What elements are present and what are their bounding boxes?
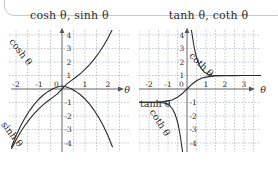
y-tick-4: 4 [180, 31, 185, 40]
y-tick--3: -3 [65, 125, 73, 134]
x-tick--2: -2 [145, 80, 153, 89]
plot-tanh-coth: -2 -1 0 1 2 3 4 3 2 1 -1 -2 -3 -4 θ [139, 0, 278, 170]
x-axis-arrow [249, 87, 255, 92]
y-tick-4: 4 [67, 31, 72, 40]
x-axis-arrow [118, 87, 124, 92]
y-tick-3: 3 [67, 44, 72, 53]
y-tick--4: -4 [190, 139, 198, 148]
y-axis-arrow [60, 28, 65, 34]
x-axis-label: θ [260, 84, 266, 95]
y-tick--2: -2 [190, 112, 198, 121]
x-tick-3: 3 [242, 80, 247, 89]
x-axis-label: θ [124, 84, 130, 95]
y-tick--3: -3 [190, 125, 198, 134]
panel-tanh-coth: tanh θ, coth θ [139, 0, 278, 170]
y-tick--1: -1 [65, 98, 72, 107]
panel-cosh-sinh: cosh θ, sinh θ [0, 0, 139, 170]
y-axis-arrow [185, 28, 190, 34]
x-tick--1: -1 [164, 80, 171, 89]
y-tick--4: -4 [65, 139, 73, 148]
x-tick-2: 2 [223, 80, 228, 89]
x-tick-1: 1 [83, 80, 88, 89]
y-tick-2: 2 [180, 58, 185, 67]
hyperbolic-function-figure: cosh θ, sinh θ [0, 0, 278, 170]
y-tick-1: 1 [67, 71, 72, 80]
x-tick--1: -1 [35, 80, 42, 89]
y-tick-1: 1 [180, 71, 185, 80]
x-tick--2: -2 [12, 80, 20, 89]
x-tick-1: 1 [204, 80, 209, 89]
y-tick-2: 2 [67, 58, 72, 67]
y-tick--1: -1 [190, 98, 197, 107]
y-tick-3: 3 [180, 44, 185, 53]
x-tick-2: 2 [106, 80, 111, 89]
x-tick-labels: -2 -1 0 1 2 [12, 80, 110, 89]
y-tick--2: -2 [65, 112, 73, 121]
x-tick-0: 0 [54, 80, 59, 89]
x-tick-0: 0 [179, 80, 184, 89]
